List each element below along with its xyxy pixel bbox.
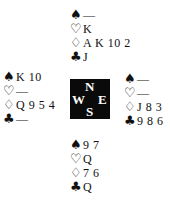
east-diamonds-cards: J 8 3: [137, 100, 162, 114]
south-hearts-cards: Q: [83, 152, 92, 166]
north-diamonds-cards: A K 10 2: [83, 36, 131, 50]
spade-icon: ♠: [3, 70, 16, 84]
club-icon: ♣: [3, 112, 16, 126]
south-spades: ♠ 9 7: [70, 138, 100, 152]
club-icon: ♣: [70, 180, 83, 194]
east-diamonds: ♢ J 8 3: [124, 100, 164, 114]
west-spades-cards: K 10: [16, 70, 42, 84]
west-diamonds: ♢ Q 9 5 4: [3, 98, 55, 112]
compass-west-label: W: [72, 93, 85, 106]
east-spades: ♠ —: [124, 72, 164, 86]
spade-icon: ♠: [70, 8, 83, 22]
south-clubs-cards: Q: [83, 180, 92, 194]
west-hand: ♠ K 10 ♡ — ♢ Q 9 5 4 ♣ —: [3, 70, 55, 126]
east-clubs-cards: 9 8 6: [137, 114, 164, 128]
south-diamonds: ♢ 7 6: [70, 166, 100, 180]
club-icon: ♣: [70, 50, 83, 64]
south-clubs: ♣ Q: [70, 180, 100, 194]
east-spades-cards: —: [137, 72, 150, 86]
north-hearts-cards: K: [83, 22, 92, 36]
west-clubs: ♣ —: [3, 112, 55, 126]
compass-east-label: E: [98, 93, 107, 106]
west-hearts-cards: —: [16, 84, 29, 98]
heart-icon: ♡: [70, 152, 83, 166]
spade-icon: ♠: [70, 138, 83, 152]
compass-box: N W E S: [70, 79, 110, 119]
west-clubs-cards: —: [16, 112, 29, 126]
north-hand: ♠ — ♡ K ♢ A K 10 2 ♣ J: [70, 8, 131, 64]
west-diamonds-cards: Q 9 5 4: [16, 98, 55, 112]
west-hearts: ♡ —: [3, 84, 55, 98]
west-spades: ♠ K 10: [3, 70, 55, 84]
diamond-icon: ♢: [124, 100, 137, 114]
north-spades-cards: —: [83, 8, 96, 22]
compass-south-label: S: [86, 105, 93, 118]
heart-icon: ♡: [70, 22, 83, 36]
east-clubs: ♣ 9 8 6: [124, 114, 164, 128]
north-hearts: ♡ K: [70, 22, 131, 36]
south-spades-cards: 9 7: [83, 138, 100, 152]
south-hand: ♠ 9 7 ♡ Q ♢ 7 6 ♣ Q: [70, 138, 100, 194]
east-hearts-cards: —: [137, 86, 150, 100]
east-hearts: ♡ —: [124, 86, 164, 100]
diamond-icon: ♢: [70, 36, 83, 50]
south-diamonds-cards: 7 6: [83, 166, 100, 180]
club-icon: ♣: [124, 114, 137, 128]
north-diamonds: ♢ A K 10 2: [70, 36, 131, 50]
south-hearts: ♡ Q: [70, 152, 100, 166]
north-clubs: ♣ J: [70, 50, 131, 64]
north-clubs-cards: J: [83, 50, 88, 64]
east-hand: ♠ — ♡ — ♢ J 8 3 ♣ 9 8 6: [124, 72, 164, 128]
diamond-icon: ♢: [3, 98, 16, 112]
north-spades: ♠ —: [70, 8, 131, 22]
compass-north-label: N: [85, 80, 94, 93]
heart-icon: ♡: [3, 84, 16, 98]
diamond-icon: ♢: [70, 166, 83, 180]
heart-icon: ♡: [124, 86, 137, 100]
spade-icon: ♠: [124, 72, 137, 86]
